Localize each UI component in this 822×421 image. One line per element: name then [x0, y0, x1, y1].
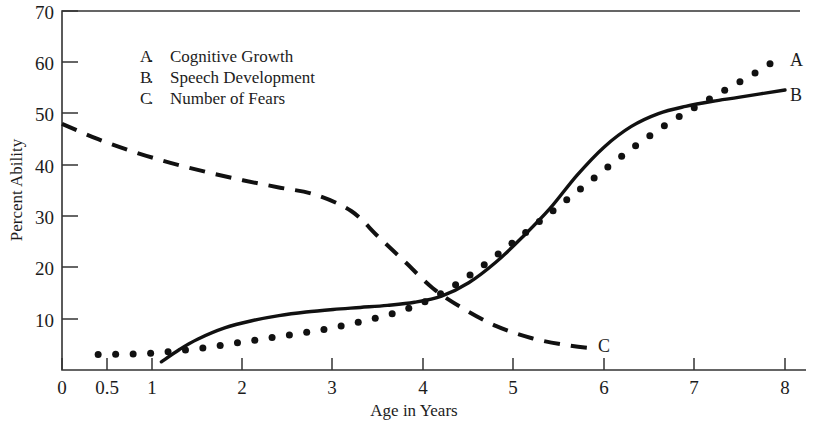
x-tick-label-3: 3: [327, 377, 337, 398]
series-dot: [421, 298, 428, 305]
series-dot: [437, 290, 444, 297]
curve-end-label-b: B: [790, 85, 802, 105]
legend-dot-b: .: [149, 68, 153, 87]
legend: A . Cognitive Growth B . Speech Developm…: [140, 47, 315, 108]
x-tick-label-5: 5: [508, 377, 518, 398]
series-dot: [706, 95, 713, 102]
series-dot: [495, 251, 502, 258]
x-tick-label-8: 8: [780, 377, 790, 398]
series-dot: [691, 104, 698, 111]
series-dot: [303, 329, 310, 336]
curve-end-label-a: A: [790, 50, 803, 70]
series-dot: [481, 261, 488, 268]
series-dot: [536, 218, 543, 225]
legend-dot-c: .: [149, 89, 153, 108]
y-tick-label-50: 50: [35, 104, 54, 125]
series-dot: [467, 271, 474, 278]
series-dot: [508, 240, 515, 247]
legend-dot-a: .: [149, 47, 153, 66]
chart-figure: 70 60 50 40 30 20 10 0 0.5 1 2 3: [0, 0, 822, 421]
series-dot: [199, 344, 206, 351]
y-tick-label-30: 30: [35, 207, 54, 228]
series-dot: [661, 122, 668, 129]
y-axis-tick-labels: 70 60 50 40 30 20 10: [35, 2, 54, 331]
legend-label-cognitive-growth: Cognitive Growth: [170, 47, 294, 66]
series-dot: [522, 229, 529, 236]
series-dot: [577, 185, 584, 192]
curve-end-label-c: C: [598, 336, 610, 356]
series-dot: [676, 113, 683, 120]
x-tick-label-4: 4: [418, 377, 428, 398]
series-dot: [165, 348, 172, 355]
series-dot: [355, 319, 362, 326]
series-dot: [646, 132, 653, 139]
series-dot: [372, 315, 379, 322]
series-dot: [550, 207, 557, 214]
x-tick-label-0: 0: [57, 377, 67, 398]
series-dot: [147, 350, 154, 357]
series-dot: [752, 69, 759, 76]
y-axis-ticks: [62, 11, 78, 319]
series-dot: [234, 339, 241, 346]
series-line-speech-development: [161, 90, 785, 362]
x-axis-ticks: [62, 358, 785, 370]
series-dot: [95, 351, 102, 358]
series-dot: [767, 60, 774, 67]
y-tick-label-20: 20: [35, 258, 54, 279]
y-tick-label-70: 70: [35, 2, 54, 23]
series-dot: [736, 78, 743, 85]
series-dot: [618, 153, 625, 160]
series-dot: [563, 196, 570, 203]
series-dot: [286, 331, 293, 338]
series-dot: [251, 337, 258, 344]
x-tick-label-2: 2: [237, 377, 247, 398]
series-dot: [320, 326, 327, 333]
series-line-number-of-fears: [62, 124, 595, 349]
series-dot: [269, 334, 276, 341]
series-dot: [405, 305, 412, 312]
chart-canvas: 70 60 50 40 30 20 10 0 0.5 1 2 3: [0, 0, 822, 421]
y-axis-title: Percent Ability: [7, 138, 26, 241]
series-dot: [604, 164, 611, 171]
legend-label-speech-development: Speech Development: [170, 68, 315, 87]
x-axis-title: Age in Years: [370, 401, 457, 420]
series-dot: [721, 87, 728, 94]
x-axis-tick-labels: 0 0.5 1 2 3 4 5 6 7 8: [57, 377, 790, 398]
y-tick-label-40: 40: [35, 156, 54, 177]
x-tick-label-0.5: 0.5: [95, 377, 119, 398]
series-dot: [338, 323, 345, 330]
series-dot: [217, 342, 224, 349]
legend-label-number-of-fears: Number of Fears: [170, 89, 285, 108]
series-dot: [591, 174, 598, 181]
series-dot: [130, 350, 137, 357]
series-dot: [452, 281, 459, 288]
series-dot: [632, 142, 639, 149]
y-tick-label-10: 10: [35, 310, 54, 331]
series-dot: [182, 346, 189, 353]
series-dot: [389, 310, 396, 317]
series-dot: [112, 351, 119, 358]
x-tick-label-7: 7: [689, 377, 699, 398]
x-tick-label-6: 6: [599, 377, 609, 398]
x-tick-label-1: 1: [147, 377, 157, 398]
y-tick-label-60: 60: [35, 53, 54, 74]
